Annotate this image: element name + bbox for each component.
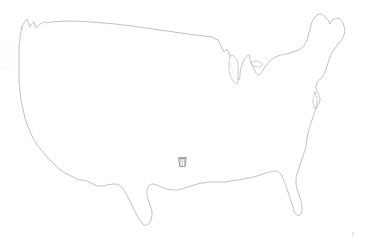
- basket-icon[interactable]: [177, 156, 188, 168]
- map-canvas: Contiguous United States outline: [0, 0, 367, 243]
- map-marker[interactable]: [177, 156, 188, 168]
- scan-speck: [352, 232, 354, 236]
- us-outline-map: Contiguous United States outline: [0, 0, 367, 243]
- lake-erie-outline: [252, 61, 263, 67]
- us-mainland-outline: [19, 14, 345, 225]
